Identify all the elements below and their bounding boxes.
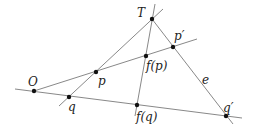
line-O-q-fq-qprime bbox=[15, 89, 242, 118]
point-T bbox=[150, 17, 154, 21]
projective-diagram: T p′ f(p) p O q f(q) q′ e bbox=[0, 0, 255, 130]
point-O bbox=[32, 89, 36, 93]
point-f-q bbox=[135, 103, 139, 107]
label-q: q bbox=[68, 100, 76, 114]
label-e: e bbox=[202, 73, 209, 87]
point-q bbox=[67, 95, 71, 99]
label-f-p: f(p) bbox=[145, 59, 168, 73]
point-p-prime bbox=[171, 45, 175, 49]
label-p: p bbox=[98, 74, 106, 88]
point-f-p bbox=[144, 54, 148, 58]
label-f-q: f(q) bbox=[135, 110, 158, 124]
label-p-prime: p′ bbox=[174, 29, 185, 43]
label-O: O bbox=[28, 75, 38, 89]
label-T: T bbox=[137, 6, 146, 20]
label-q-prime: q′ bbox=[223, 101, 234, 115]
